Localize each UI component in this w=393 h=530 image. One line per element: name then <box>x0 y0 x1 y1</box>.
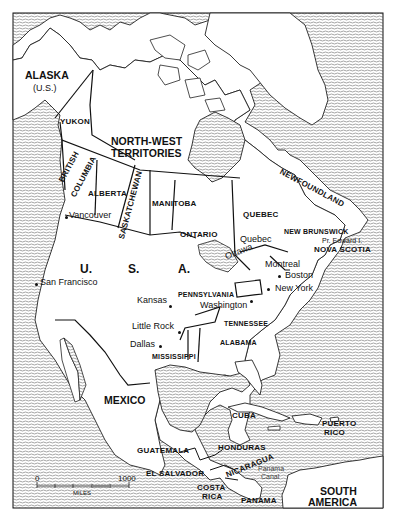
label-pei: Pr. Edward I. <box>322 237 362 244</box>
label-manitoba: MANITOBA <box>152 200 197 208</box>
label-ontario: ONTARIO <box>180 231 218 239</box>
city-dot-washington <box>250 300 253 303</box>
label-panama-canal-2: Canal <box>261 473 279 480</box>
label-panama: PANAMA <box>241 497 277 505</box>
label-nova-scotia: NOVA SCOTIA <box>314 246 371 254</box>
label-south-america-1: SOUTH <box>320 486 357 497</box>
city-montreal: Montreal <box>265 260 300 269</box>
city-boston: Boston <box>285 271 313 280</box>
label-usa-s: S. <box>128 263 139 275</box>
label-honduras: HONDURAS <box>218 444 266 452</box>
label-costa-rica-2: RICA <box>202 493 222 501</box>
city-new-york: New York <box>275 284 313 293</box>
city-dot-vancouver <box>65 216 68 219</box>
label-panama-canal-1: Panama <box>258 465 284 472</box>
label-puerto-rico-1: PUERTO <box>322 420 356 428</box>
city-san-francisco: San Francisco <box>40 278 98 287</box>
label-nwt-1: NORTH-WEST <box>111 136 182 147</box>
label-pennsylvania: PENNSYLVANIA <box>178 291 234 298</box>
label-el-salvador: EL SALVADOR <box>146 470 204 478</box>
label-yukon: YUKON <box>60 118 90 126</box>
city-dot-little-rock <box>178 331 181 334</box>
label-alberta: ALBERTA <box>88 190 127 198</box>
label-nwt-2: TERRITORIES <box>111 148 181 159</box>
label-south-america-2: AMERICA <box>308 497 357 508</box>
city-dot-san-francisco <box>35 283 38 286</box>
label-alaska: ALASKA <box>25 70 69 81</box>
city-dot-dallas <box>159 345 162 348</box>
city-dot-kansas <box>169 305 172 308</box>
scale-unit: MILES <box>73 490 91 496</box>
label-costa-rica-1: COSTA <box>197 484 225 492</box>
label-mexico: MEXICO <box>104 395 145 406</box>
label-new-brunswick: NEW BRUNSWICK <box>284 228 348 235</box>
city-vancouver: Vancouver <box>69 211 111 220</box>
label-alaska-sub: (U.S.) <box>33 84 57 93</box>
label-cuba: CUBA <box>232 412 256 420</box>
city-dot-boston <box>278 275 281 278</box>
label-guatemala: GUATEMALA <box>137 447 189 455</box>
label-quebec: QUEBEC <box>243 211 278 219</box>
label-mississippi: MISSISSIPPI <box>152 353 196 360</box>
city-dallas: Dallas <box>130 340 155 349</box>
city-kansas: Kansas <box>137 296 167 305</box>
city-little-rock: Little Rock <box>132 322 174 331</box>
label-puerto-rico-2: RICO <box>324 429 345 437</box>
label-tennessee: TENNESSEE <box>224 320 268 327</box>
label-usa-a: A. <box>178 263 190 275</box>
label-alabama: ALABAMA <box>220 339 257 346</box>
city-dot-new-york <box>267 288 270 291</box>
label-usa-u: U. <box>80 263 92 275</box>
city-washington: Washington <box>200 301 247 310</box>
scale-end: 1000 <box>118 475 136 483</box>
scale-start: 0 <box>35 475 39 483</box>
land-jamaica <box>268 426 280 430</box>
